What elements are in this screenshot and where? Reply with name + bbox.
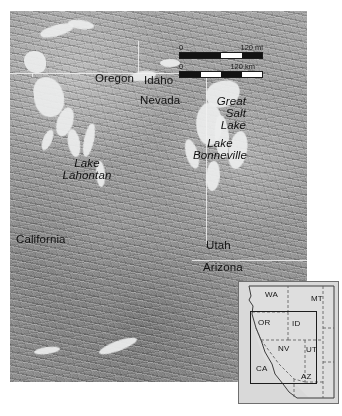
scale-bar-segment xyxy=(180,53,201,58)
great-salt-lake-line-1: Great xyxy=(190,95,246,107)
map-label-oregon: Oregon xyxy=(95,72,134,84)
map-label-idaho: Idaho xyxy=(144,74,173,86)
paleolake-polygon xyxy=(160,59,180,67)
scale-bar-segment xyxy=(242,53,263,58)
scale-bar-miles-max: 120 mi xyxy=(240,43,263,52)
lake-bonneville-line-2: Bonneville xyxy=(175,149,265,161)
inset-label-mt: MT xyxy=(311,294,323,303)
great-salt-lake-line-2: Salt xyxy=(190,107,246,119)
scale-bar-segment xyxy=(201,72,222,77)
scale-bar-segment xyxy=(242,72,263,77)
lake-lahontan-line-2: Lahontan xyxy=(48,169,126,181)
inset-label-or: OR xyxy=(258,318,270,327)
scale-bar-miles-labels: 0 120 mi xyxy=(179,43,263,52)
scale-bar-segment xyxy=(221,72,242,77)
scale-bar-miles: 0 120 mi xyxy=(179,43,263,58)
scale-bar-miles-track xyxy=(179,52,263,59)
scale-bar: 0 120 mi 0 120 km xyxy=(179,43,263,77)
lake-lahontan-line-1: Lake xyxy=(48,157,126,169)
map-label-nevada: Nevada xyxy=(140,94,180,106)
paleolake-polygon xyxy=(24,51,46,73)
inset-label-wa: WA xyxy=(265,290,278,299)
map-label-great-salt-lake: Great Salt Lake xyxy=(190,95,246,131)
lake-bonneville-line-1: Lake xyxy=(175,137,265,149)
map-label-california: California xyxy=(16,233,66,245)
map-label-arizona: Arizona xyxy=(203,261,243,273)
map-label-lake-bonneville: Lake Bonneville xyxy=(175,137,265,161)
inset-label-nv: NV xyxy=(278,344,290,353)
map-label-utah: Utah xyxy=(206,239,231,251)
scale-bar-miles-min: 0 xyxy=(179,43,183,52)
locator-inset-map[interactable]: WA MT OR ID NV UT CA AZ xyxy=(238,281,339,404)
scale-bar-segment xyxy=(201,53,222,58)
inset-label-ca: CA xyxy=(256,364,268,373)
scale-bar-kilometers: 0 120 km xyxy=(179,62,263,77)
state-border-oregon-idaho xyxy=(138,41,139,74)
scale-bar-segment xyxy=(221,53,242,58)
scale-bar-km-min: 0 xyxy=(179,62,183,71)
map-label-lake-lahontan: Lake Lahontan xyxy=(48,157,126,181)
scale-bar-km-labels: 0 120 km xyxy=(179,62,263,71)
inset-label-id: ID xyxy=(292,319,300,328)
scale-bar-km-max: 120 km xyxy=(230,62,255,71)
great-salt-lake-line-3: Lake xyxy=(190,119,246,131)
state-border-nevada-california xyxy=(32,73,33,77)
inset-label-az: AZ xyxy=(301,372,312,381)
scale-bar-km-track xyxy=(179,71,263,78)
scale-bar-segment xyxy=(180,72,201,77)
inset-label-ut: UT xyxy=(306,345,317,354)
